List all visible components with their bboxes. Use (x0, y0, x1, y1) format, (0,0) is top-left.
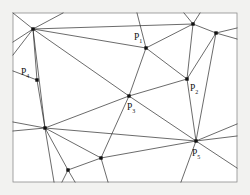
vertex-label-subscript: 4 (26, 73, 29, 79)
vertex-label-subscript: 1 (139, 38, 142, 44)
vertex-point (35, 78, 38, 81)
triangulation-diagram: P1P2P3P4P5 (0, 0, 250, 195)
vertex-point (99, 156, 102, 159)
vertex-point (194, 139, 197, 142)
vertex-point (66, 168, 69, 171)
vertex-point (127, 94, 130, 97)
vertex-point (31, 27, 34, 30)
vertex-point (214, 31, 217, 34)
vertex-label-subscript: 3 (132, 108, 135, 114)
figure-container: P1P2P3P4P5 (0, 0, 250, 195)
vertex-label-subscript: 5 (197, 154, 200, 160)
vertex-point (191, 22, 194, 25)
vertex-point (185, 77, 188, 80)
vertex-label-subscript: 2 (195, 89, 198, 95)
vertex-point (144, 46, 147, 49)
vertex-point (43, 126, 46, 129)
